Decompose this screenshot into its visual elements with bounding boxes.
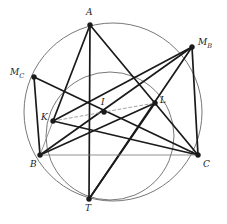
segment-A-T (89, 25, 90, 199)
point-label-text-MB: M (198, 37, 207, 47)
segment-C-K (53, 121, 198, 155)
point-I (102, 110, 107, 115)
point-label-subscript-MC: C (19, 72, 24, 80)
point-label-I: I (101, 98, 105, 107)
point-L (153, 101, 158, 106)
point-C (196, 153, 201, 158)
point-label-A: A (86, 8, 93, 17)
point-label-text-B: B (30, 159, 37, 169)
point-label-text-A: A (86, 7, 93, 17)
segment-MC-C (34, 77, 198, 155)
segment-MC-B (34, 77, 40, 155)
point-label-text-L: L (160, 95, 166, 105)
point-MC (32, 75, 37, 80)
point-T (87, 197, 92, 202)
segment-MB-C (192, 47, 198, 155)
geometry-figure: AMBMCILKBCT (0, 0, 227, 224)
point-K (51, 119, 56, 124)
geometry-canvas (0, 0, 227, 224)
point-label-text-K: K (41, 112, 48, 122)
point-label-MC: MC (10, 68, 24, 79)
segment-MB-K (53, 47, 192, 121)
segment-MB-B (40, 47, 192, 155)
point-label-L: L (160, 96, 166, 105)
segment-A-K (53, 25, 90, 121)
point-label-text-C: C (203, 159, 210, 169)
point-MB (190, 45, 195, 50)
point-label-T: T (85, 204, 91, 213)
point-label-text-I: I (101, 97, 105, 107)
point-label-B: B (30, 160, 37, 169)
point-label-text-MC: M (10, 67, 19, 77)
segment-A-C (90, 25, 198, 155)
point-B (38, 153, 43, 158)
point-label-MB: MB (198, 38, 212, 49)
point-A (88, 23, 93, 28)
point-label-C: C (203, 160, 210, 169)
point-label-subscript-MB: B (207, 42, 212, 50)
point-label-K: K (41, 113, 48, 122)
point-label-text-T: T (85, 203, 91, 213)
